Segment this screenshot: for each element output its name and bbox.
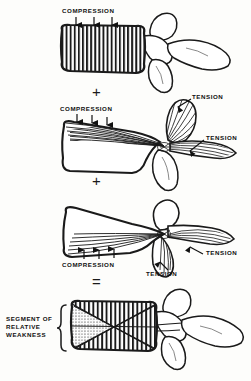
compression-label-1: COMPRESSION	[62, 7, 114, 15]
segment-of-relative-weakness-label: SEGMENT OF RELATIVE WEAKNESS	[6, 315, 52, 340]
tension-label-posterior-2: TENSION	[206, 134, 237, 142]
compression-label-2: COMPRESSION	[60, 105, 112, 113]
plus-sign-2: +	[92, 173, 101, 188]
tension-label-inferior-3: TENSION	[146, 270, 177, 278]
tension-label-posterior-3: TENSION	[206, 249, 237, 257]
tension-label-spinous-2: TENSION	[192, 93, 223, 101]
plus-sign-1: +	[92, 84, 101, 99]
vertebral-body-hatching	[65, 296, 165, 356]
compression-label-3: COMPRESSION	[62, 261, 114, 269]
equals-sign: =	[92, 274, 101, 289]
